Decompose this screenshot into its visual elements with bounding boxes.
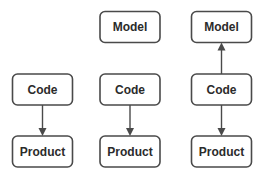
edge-arrow-down (218, 105, 226, 136)
node-code: Code (100, 74, 160, 105)
node-label: Product (199, 145, 244, 159)
edge-arrow-down (39, 105, 47, 136)
node-label: Product (107, 145, 152, 159)
arrowhead-icon (126, 128, 134, 136)
edge-arrow-up (218, 43, 226, 75)
node-label: Model (113, 20, 148, 34)
arrowhead-icon (218, 43, 226, 51)
node-model: Model (192, 12, 252, 43)
diagram: CodeProductModelCodeProductModelCodeProd… (0, 0, 267, 180)
node-label: Code (207, 83, 237, 97)
node-product: Product (13, 136, 73, 167)
node-label: Code (115, 83, 145, 97)
node-model: Model (100, 12, 160, 43)
node-label: Model (204, 20, 239, 34)
node-code: Code (192, 74, 252, 105)
arrowhead-icon (218, 128, 226, 136)
node-code: Code (13, 74, 73, 105)
arrowhead-icon (39, 128, 47, 136)
node-product: Product (100, 136, 160, 167)
node-label: Product (20, 145, 65, 159)
node-label: Code (28, 83, 58, 97)
node-product: Product (192, 136, 252, 167)
edge-arrow-down (126, 105, 134, 136)
